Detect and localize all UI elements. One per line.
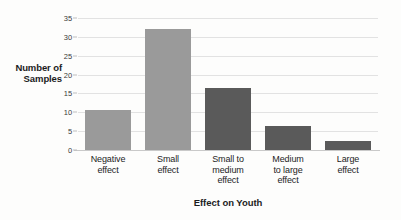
bar-slot — [318, 18, 378, 150]
plot-area: 05101520253035 — [78, 18, 378, 150]
y-axis-tick-label: 15 — [64, 89, 72, 98]
bar[interactable] — [265, 126, 311, 151]
bar[interactable] — [85, 110, 131, 150]
x-axis-category-label-line: effect — [318, 165, 378, 176]
bar[interactable] — [145, 29, 191, 150]
bar[interactable] — [205, 88, 251, 150]
y-axis-tick-label: 25 — [64, 51, 72, 60]
bar-slot — [198, 18, 258, 150]
bar[interactable] — [325, 141, 371, 150]
y-axis-tick-mark — [73, 18, 77, 19]
x-axis-category-label: Small tomediumeffect — [198, 154, 258, 186]
bar-chart-figure: Number of Samples 05101520253035 Negativ… — [0, 0, 401, 220]
x-axis-category-label: Negativeeffect — [78, 154, 138, 175]
x-axis-category-label-line: Negative — [78, 154, 138, 165]
x-axis-category-label-line: medium — [198, 165, 258, 176]
x-axis-category-label-line: Large — [318, 154, 378, 165]
x-axis-category-label: Largeeffect — [318, 154, 378, 175]
y-axis-tick-label: 5 — [68, 127, 72, 136]
y-axis-title-line-1: Number of — [0, 62, 62, 73]
x-axis-category-label-line: effect — [78, 165, 138, 176]
y-axis-tick-mark — [73, 93, 77, 94]
x-axis-category-label-line: Small to — [198, 154, 258, 165]
bar-slot — [138, 18, 198, 150]
x-axis-category-label-line: effect — [258, 175, 318, 186]
bars-group — [78, 18, 378, 150]
y-axis-tick-label: 35 — [64, 14, 72, 23]
y-axis-title: Number of Samples — [0, 62, 62, 84]
y-axis-tick-mark — [73, 55, 77, 56]
axis-baseline — [74, 150, 380, 151]
y-axis-tick-label: 0 — [68, 146, 72, 155]
y-axis-title-line-2: Samples — [0, 73, 62, 84]
y-axis-tick-mark — [73, 36, 77, 37]
y-axis-tick-mark — [73, 131, 77, 132]
x-axis-category-label-line: Medium — [258, 154, 318, 165]
y-axis-tick-label: 20 — [64, 70, 72, 79]
bar-slot — [78, 18, 138, 150]
x-axis-category-labels: NegativeeffectSmalleffectSmall tomediume… — [78, 154, 378, 194]
y-axis-tick-mark — [73, 112, 77, 113]
y-axis-tick-mark — [73, 150, 77, 151]
x-axis-category-label-line: effect — [198, 175, 258, 186]
x-axis-category-label-line: effect — [138, 165, 198, 176]
y-axis-tick-label: 10 — [64, 108, 72, 117]
x-axis-category-label: Smalleffect — [138, 154, 198, 175]
bar-slot — [258, 18, 318, 150]
y-axis-tick-label: 30 — [64, 32, 72, 41]
x-axis-category-label-line: Small — [138, 154, 198, 165]
x-axis-category-label-line: to large — [258, 165, 318, 176]
y-axis-tick-mark — [73, 74, 77, 75]
x-axis-category-label: Mediumto largeeffect — [258, 154, 318, 186]
x-axis-title: Effect on Youth — [78, 197, 378, 208]
